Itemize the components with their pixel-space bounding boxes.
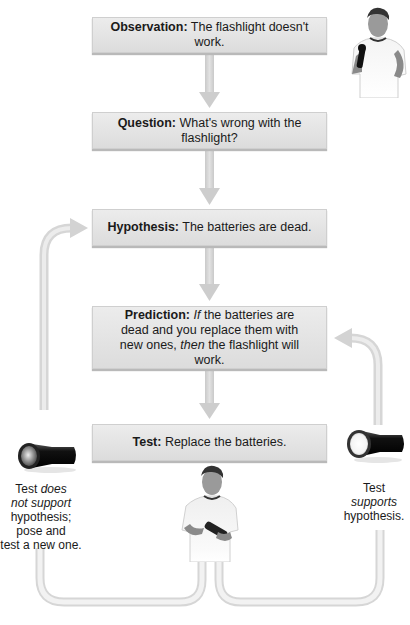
down-arrow-4: [199, 370, 220, 419]
hypothesis-term: Hypothesis:: [107, 220, 179, 234]
right-feedback-arrow: [334, 328, 378, 425]
flashlight-on-icon: [344, 424, 406, 464]
prediction-text-end: the flashlight will work.: [195, 338, 300, 367]
right-outcome-line1: Test: [338, 481, 410, 495]
flashlight-off-icon: [12, 436, 78, 474]
hypothesis-box: Hypothesis: The batteries are dead.: [92, 209, 327, 246]
question-box: Question: What's wrong with the flashlig…: [92, 112, 327, 149]
left-outcome-line3: hypothesis;: [0, 510, 82, 524]
observation-box: Observation: The flashlight doesn't work…: [92, 17, 327, 53]
person-with-microphone-illustration: [348, 4, 408, 98]
left-outcome-line5: test a new one.: [0, 538, 82, 552]
observation-term: Observation:: [110, 20, 187, 34]
question-text: What's wrong with the flashlight?: [176, 116, 301, 145]
left-outcome-italic2: not support: [11, 496, 71, 510]
left-outcome-label: Test does not support hypothesis; pose a…: [0, 482, 82, 552]
prediction-term: Prediction:: [125, 308, 190, 322]
test-text: Replace the batteries.: [161, 435, 286, 449]
prediction-box: Prediction: If the batteries are dead an…: [92, 306, 327, 369]
prediction-then: then: [180, 338, 204, 352]
hypothesis-text: The batteries are dead.: [179, 220, 312, 234]
left-outcome-italic1: does: [41, 482, 67, 496]
right-outcome-italic: supports: [351, 495, 397, 509]
test-term: Test:: [132, 435, 161, 449]
down-arrow-3: [199, 247, 220, 301]
question-term: Question:: [118, 116, 176, 130]
test-box: Test: Replace the batteries.: [92, 424, 327, 461]
right-outcome-label: Test supports hypothesis.: [338, 481, 410, 523]
left-outcome-line4: pose and: [0, 524, 82, 538]
down-arrow-2: [199, 150, 220, 205]
left-outcome-line1: Test: [15, 482, 40, 496]
observation-text: The flashlight doesn't work.: [188, 20, 309, 49]
down-arrow-1: [199, 54, 220, 108]
right-outcome-line3: hypothesis.: [338, 509, 410, 523]
person-with-flashlight-illustration: [176, 462, 246, 562]
left-feedback-arrow: [44, 218, 88, 410]
